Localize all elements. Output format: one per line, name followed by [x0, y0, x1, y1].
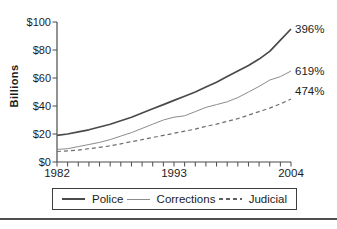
corrections-line: [57, 71, 291, 149]
y-tick-label: $20: [0, 128, 51, 140]
police-growth-label: 396%: [295, 22, 335, 36]
police-line: [57, 29, 291, 135]
y-tick-label: $60: [0, 72, 51, 84]
y-tick-label: $40: [0, 100, 51, 112]
legend-label: Judicial: [249, 193, 287, 205]
x-tick-label: 1993: [152, 167, 196, 180]
judicial-line-swatch-icon: [219, 198, 242, 200]
y-tick-label: $80: [0, 44, 51, 56]
legend-item-corrections: Corrections: [127, 193, 216, 205]
justice-spending-line-chart: Billions PoliceCorrectionsJudicial $100$…: [0, 0, 337, 229]
corrections-growth-label: 619%: [295, 64, 335, 78]
x-tick-label: 2004: [269, 167, 313, 180]
judicial-growth-label: 474%: [295, 84, 335, 98]
police-line-swatch-icon: [62, 198, 85, 200]
x-tick-label: 1982: [35, 167, 79, 180]
corrections-line-swatch-icon: [127, 199, 150, 200]
legend: PoliceCorrectionsJudicial: [52, 188, 297, 210]
y-tick-label: $100: [0, 16, 51, 28]
legend-label: Police: [92, 193, 123, 205]
bottom-divider: [0, 218, 337, 220]
legend-item-police: Police: [62, 193, 123, 205]
legend-item-judicial: Judicial: [219, 193, 287, 205]
legend-label: Corrections: [157, 193, 216, 205]
